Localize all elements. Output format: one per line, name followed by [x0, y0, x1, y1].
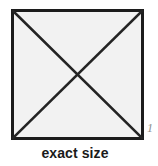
square-with-diagonals-figure	[11, 9, 144, 140]
figure-number-label: 1	[147, 119, 158, 137]
square-diagram-svg	[11, 9, 144, 140]
figure-caption: exact size	[0, 144, 150, 162]
figure-container: 1 exact size	[0, 0, 158, 166]
